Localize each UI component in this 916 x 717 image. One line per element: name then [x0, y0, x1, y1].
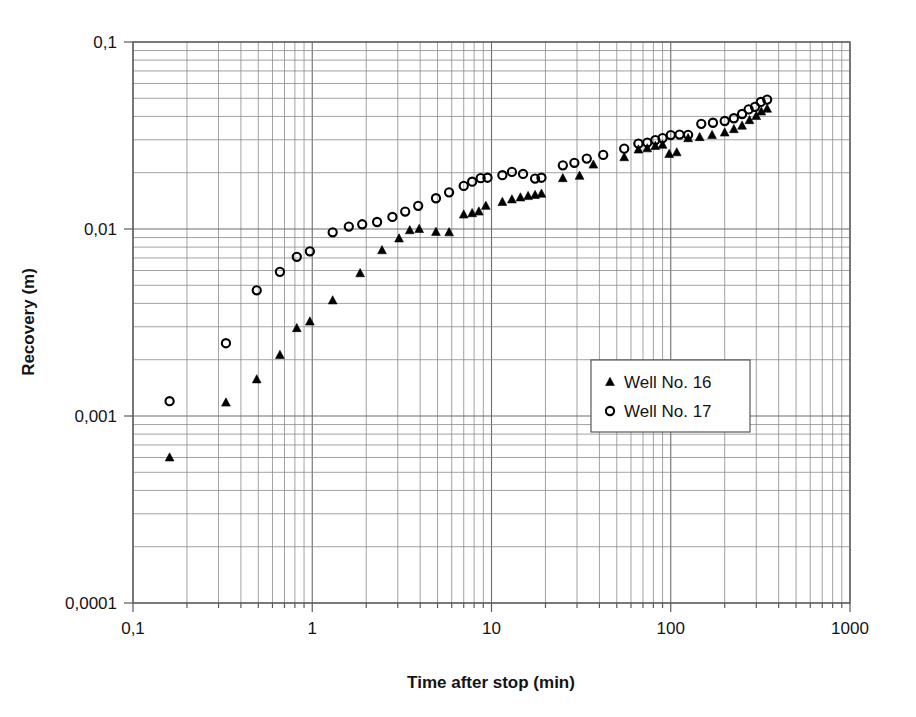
- y-tick-label: 0,001: [74, 407, 117, 426]
- data-point-circle: [293, 253, 301, 261]
- data-point-triangle: [695, 132, 704, 140]
- data-point-circle: [401, 207, 409, 215]
- data-point-triangle: [222, 398, 231, 406]
- data-point-circle: [388, 213, 396, 221]
- scatter-plot: 0,111010010000,10,010,0010,0001 Well No.…: [0, 0, 916, 717]
- legend-label-2: Well No. 17: [624, 402, 712, 421]
- legend-box: [591, 360, 750, 432]
- data-point-triangle: [165, 453, 174, 461]
- data-point-circle: [709, 119, 717, 127]
- data-point-circle: [222, 339, 230, 347]
- data-point-circle: [508, 168, 516, 176]
- x-tick-label: 10: [482, 619, 501, 638]
- data-point-triangle: [738, 121, 747, 129]
- legend-label-1: Well No. 16: [624, 373, 712, 392]
- data-point-triangle: [481, 201, 490, 209]
- data-point-circle: [414, 202, 422, 210]
- y-tick-label: 0,01: [84, 220, 117, 239]
- y-tick-label: 0,0001: [65, 594, 117, 613]
- data-point-circle: [432, 194, 440, 202]
- x-axis-title: Time after stop (min): [407, 673, 575, 692]
- data-point-triangle: [252, 375, 261, 383]
- data-point-circle: [583, 154, 591, 162]
- data-point-triangle: [558, 173, 567, 181]
- data-point-circle: [730, 114, 738, 122]
- data-point-triangle: [328, 296, 337, 304]
- data-point-triangle: [405, 226, 414, 234]
- y-axis-title: Recovery (m): [19, 268, 38, 376]
- data-point-triangle: [508, 195, 517, 203]
- data-point-circle: [373, 218, 381, 226]
- data-point-triangle: [665, 149, 674, 157]
- data-point-circle: [559, 161, 567, 169]
- data-point-triangle: [292, 323, 301, 331]
- data-point-circle: [620, 145, 628, 153]
- data-point-triangle: [498, 197, 507, 205]
- data-point-circle: [358, 220, 366, 228]
- data-point-triangle: [276, 350, 285, 358]
- data-point-circle: [519, 170, 527, 178]
- data-point-triangle: [356, 269, 365, 277]
- data-point-triangle: [537, 189, 546, 197]
- data-point-circle: [697, 120, 705, 128]
- data-point-triangle: [415, 224, 424, 232]
- chart-legend: Well No. 16Well No. 17: [591, 360, 750, 432]
- data-point-triangle: [672, 148, 681, 156]
- data-point-triangle: [720, 128, 729, 136]
- data-point-circle: [253, 286, 261, 294]
- x-tick-label: 1: [308, 619, 317, 638]
- x-tick-label: 100: [657, 619, 685, 638]
- chart-container: 0,111010010000,10,010,0010,0001 Well No.…: [0, 0, 916, 717]
- data-point-circle: [276, 268, 284, 276]
- series-2-points: [165, 96, 771, 406]
- x-tick-label: 0,1: [121, 619, 145, 638]
- data-point-triangle: [468, 208, 477, 216]
- data-point-triangle: [730, 124, 739, 132]
- data-point-circle: [468, 178, 476, 186]
- data-point-circle: [675, 130, 683, 138]
- data-point-circle: [165, 397, 173, 405]
- y-tick-label: 0,1: [93, 33, 117, 52]
- x-tick-label: 1000: [831, 619, 869, 638]
- data-point-triangle: [432, 227, 441, 235]
- data-point-triangle: [459, 210, 468, 218]
- data-point-triangle: [306, 317, 315, 325]
- data-point-triangle: [708, 130, 717, 138]
- data-point-circle: [599, 151, 607, 159]
